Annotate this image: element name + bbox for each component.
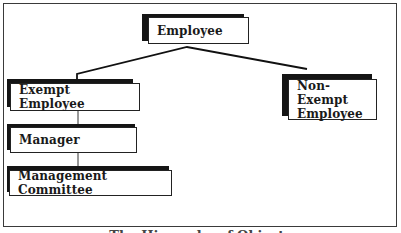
edge-employee-children (77, 47, 307, 79)
node-employee-label: Employee (148, 17, 249, 44)
node-nonexempt-box: Non-Exempt Employee (288, 79, 377, 120)
node-nonexempt-line1: Non-Exempt (297, 79, 376, 107)
node-manager-label: Manager (10, 127, 137, 153)
node-committee-label: Management Committee (9, 170, 172, 196)
figure-caption: The Hierarchy of Objects (0, 227, 401, 233)
node-nonexempt-line2: Employee (297, 107, 363, 121)
node-exempt-label: Exempt Employee (10, 83, 140, 111)
